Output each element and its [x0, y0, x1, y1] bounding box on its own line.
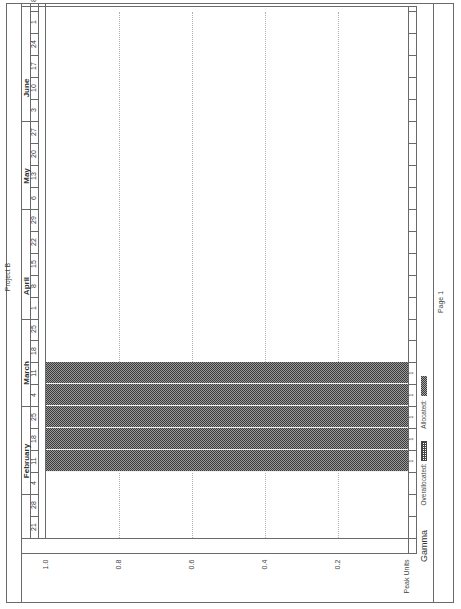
week-label: 27: [30, 121, 40, 143]
value-cell-border: [408, 275, 417, 276]
value-cell: 1: [408, 455, 418, 467]
month-boundary: [22, 319, 31, 320]
month-label: May: [22, 151, 32, 201]
value-cell: 1: [408, 433, 418, 445]
month-label: June: [22, 63, 32, 113]
value-cell-border: [408, 143, 417, 144]
value-cell-border: [408, 165, 417, 166]
value-cell-border: [408, 384, 417, 385]
value-cell-border: [408, 121, 417, 122]
bar-allocated: [46, 450, 408, 472]
legend-allocated-label: Allocated:: [420, 395, 429, 435]
value-cell-border: [408, 231, 417, 232]
week-label: 22: [30, 231, 40, 253]
y-tick-0-2: 0.2: [334, 553, 343, 577]
value-cell-border: [408, 55, 417, 56]
week-label: 21: [30, 516, 40, 538]
bar-allocated: [46, 362, 408, 384]
value-cell-border: [408, 297, 417, 298]
value-cell: 1: [408, 367, 418, 379]
value-cell: 1: [408, 411, 418, 423]
month-boundary: [22, 494, 31, 495]
week-label: 25: [30, 406, 40, 428]
week-label: 1: [30, 11, 40, 33]
legend-overallocated-label: Overallocated:: [420, 459, 429, 511]
values-row-top: [408, 6, 417, 7]
month-label: March: [22, 348, 32, 398]
values-row-right: [416, 6, 417, 553]
plot-top-border: [22, 6, 408, 7]
value-cell-border: [408, 33, 417, 34]
value-cell-border: [408, 187, 417, 188]
y-tick-1-0: 1.0: [42, 553, 51, 577]
axis-row-top: [22, 538, 417, 539]
value-cell-border: [408, 209, 417, 210]
value-cell-border: [408, 362, 417, 363]
y-tick-0-6: 0.6: [188, 553, 197, 577]
month-label: April: [22, 261, 32, 311]
value-cell-border: [408, 494, 417, 495]
value-cell-border: [408, 340, 417, 341]
axis-row-bottom: [22, 553, 417, 554]
value-cell-border: [408, 11, 417, 12]
value-cell-border: [408, 77, 417, 78]
week-label: 28: [30, 494, 40, 516]
resource-name: Gamma: [419, 526, 431, 566]
week-label: 29: [30, 209, 40, 231]
month-boundary: [22, 121, 31, 122]
month-label: February: [22, 436, 32, 486]
month-boundary: [22, 209, 31, 210]
value-cell-border: [408, 472, 417, 473]
page-footer: Page 1: [437, 285, 447, 319]
value-cell-border: [408, 450, 417, 451]
bar-allocated: [46, 428, 408, 450]
value-cell-border: [408, 516, 417, 517]
value-cell-border: [408, 428, 417, 429]
bar-allocated: [46, 384, 408, 406]
month-boundary: [22, 406, 31, 407]
legend-column-right: [433, 3, 434, 603]
y-axis-baseline: [408, 6, 409, 553]
value-cell-border: [408, 319, 417, 320]
page-title: Project B: [4, 252, 14, 302]
plot-area: [46, 6, 409, 538]
y-axis-label: Peak Units: [403, 555, 412, 599]
bar-allocated: [46, 406, 408, 428]
value-cell: 1: [408, 389, 418, 401]
y-tick-0-8: 0.8: [115, 553, 124, 577]
value-cell-border: [408, 253, 417, 254]
legend-allocated-swatch: [421, 376, 427, 396]
value-cell-border: [408, 406, 417, 407]
value-cell-border: [408, 99, 417, 100]
week-label: 25: [30, 318, 40, 340]
y-tick-0-4: 0.4: [261, 553, 270, 577]
week-label: 24: [30, 33, 40, 55]
legend-overallocated-swatch: [421, 441, 427, 461]
